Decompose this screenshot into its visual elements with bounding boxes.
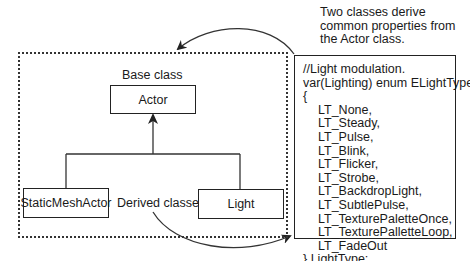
annotation-line: common properties from: [320, 20, 460, 34]
code-comment: //Light modulation.: [303, 63, 455, 77]
code-enum-item: LT_TexturePalletteLoop,: [303, 226, 455, 240]
base-class-label: Base class: [122, 68, 182, 82]
code-enum-item: LT_TexturePaletteOnce,: [303, 213, 455, 227]
class-box-staticmeshactor: StaticMeshActor: [23, 188, 109, 218]
class-name: Light: [227, 197, 254, 211]
class-name: Actor: [138, 93, 167, 107]
annotation-text: Two classes derive common properties fro…: [320, 6, 460, 47]
class-name: StaticMeshActor: [21, 196, 112, 210]
derived-classes-label: Derived classes: [117, 196, 205, 210]
annotation-line: the Actor class.: [320, 33, 460, 47]
code-close-brace: } LightType;: [303, 253, 455, 261]
code-enum-item: LT_SubtlePulse,: [303, 199, 455, 213]
curved-arrow-top: [178, 29, 294, 54]
code-enum-item: LT_Pulse,: [303, 131, 455, 145]
code-enum-declaration: var(Lighting) enum ELightType: [303, 77, 455, 91]
code-open-brace: {: [303, 90, 455, 104]
class-box-actor: Actor: [110, 85, 196, 114]
code-enum-item: LT_Blink,: [303, 145, 455, 159]
code-enum-item: LT_BackdropLight,: [303, 185, 455, 199]
code-enum-item: LT_Steady,: [303, 117, 455, 131]
code-listing: //Light modulation. var(Lighting) enum E…: [294, 55, 456, 239]
class-box-light: Light: [198, 189, 284, 219]
annotation-line: Two classes derive: [320, 6, 460, 20]
code-enum-item: LT_FadeOut: [303, 240, 455, 254]
code-enum-item: LT_None,: [303, 104, 455, 118]
code-enum-item: LT_Flicker,: [303, 158, 455, 172]
code-enum-item: LT_Strobe,: [303, 172, 455, 186]
